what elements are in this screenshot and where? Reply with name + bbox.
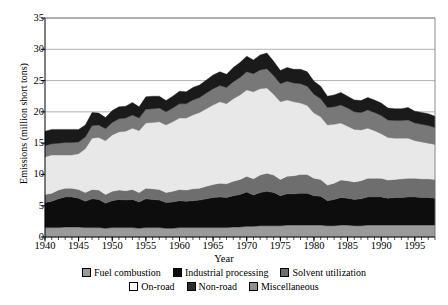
legend-row-secondary: On-roadNon-roadMiscellaneous (0, 280, 448, 293)
legend-label: On-road (141, 281, 174, 292)
legend-label: Fuel combustion (94, 267, 161, 278)
legend-item[interactable]: On-road (129, 280, 174, 293)
legend-label: Miscellaneous (261, 281, 319, 292)
emissions-stacked-area-chart: Emissions (million short tons) 051015202… (0, 0, 448, 305)
x-tick-label: 1990 (371, 240, 392, 251)
x-tick-label: 1960 (169, 240, 190, 251)
legend-item[interactable]: Miscellaneous (249, 280, 319, 293)
legend-item[interactable]: Solvent utilization (280, 266, 366, 279)
legend-swatch-icon (249, 282, 258, 291)
x-tick-label: 1940 (35, 240, 56, 251)
x-tick-label: 1975 (270, 240, 291, 251)
x-tick-label: 1995 (404, 240, 425, 251)
legend-label: Solvent utilization (292, 267, 366, 278)
x-tick-label: 1985 (337, 240, 358, 251)
x-tick-label: 1980 (303, 240, 324, 251)
legend-label: Industrial processing (185, 267, 269, 278)
legend-label: Non-road (199, 281, 237, 292)
x-tick-label: 1955 (135, 240, 156, 251)
legend-item[interactable]: Non-road (187, 280, 237, 293)
x-axis-title: Year (0, 253, 448, 264)
legend-swatch-icon (187, 282, 196, 291)
legend-swatch-icon (173, 268, 182, 277)
x-tick-label: 1965 (203, 240, 224, 251)
legend-swatch-icon (82, 268, 91, 277)
legend-swatch-icon (280, 268, 289, 277)
legend-item[interactable]: Fuel combustion (82, 266, 161, 279)
legend-item[interactable]: Industrial processing (173, 266, 269, 279)
legend-swatch-icon (129, 282, 138, 291)
legend-row-primary: Fuel combustionIndustrial processingSolv… (0, 266, 448, 279)
x-tick-label: 1970 (236, 240, 257, 251)
x-tick-label: 1950 (102, 240, 123, 251)
x-tick-label: 1945 (68, 240, 89, 251)
